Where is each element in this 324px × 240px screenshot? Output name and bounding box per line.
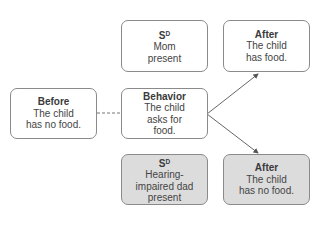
sd-label: SD [159, 28, 170, 42]
sd-label: SD [159, 156, 170, 170]
before-box: Before The child has no food. [10, 88, 97, 139]
after-bottom-line-1: The child [246, 174, 287, 186]
behavior-line-3: food. [153, 125, 175, 137]
sd-dad-line-1: Hearing- [145, 169, 183, 181]
sd-mom-line-1: Mom [153, 41, 175, 53]
sd-dad-box: SD Hearing- impaired dad present [121, 154, 208, 205]
behavior-line-1: The child [144, 102, 185, 114]
after-bottom-line-2: has no food. [239, 185, 294, 197]
sd-mom-line-2: present [148, 53, 181, 65]
sd-dad-line-2: impaired dad [136, 181, 194, 193]
after-top-line-2: has food. [246, 52, 287, 64]
before-line-2: has no food. [26, 119, 81, 131]
after-top-title: After [255, 29, 278, 41]
arrow-to-after-top [207, 74, 258, 114]
arrow-to-after-bottom [207, 114, 258, 153]
before-title: Before [38, 96, 70, 108]
after-bottom-title: After [255, 162, 278, 174]
behavior-line-2: asks for [147, 114, 182, 126]
before-line-1: The child [33, 108, 74, 120]
after-top-line-1: The child [246, 40, 287, 52]
sd-dad-line-3: present [148, 192, 181, 204]
after-bottom-box: After The child has no food. [223, 154, 310, 205]
behavior-box: Behavior The child asks for food. [121, 88, 208, 139]
behavior-title: Behavior [143, 91, 186, 103]
after-top-box: After The child has food. [223, 20, 310, 72]
sd-mom-box: SD Mom present [121, 20, 208, 72]
